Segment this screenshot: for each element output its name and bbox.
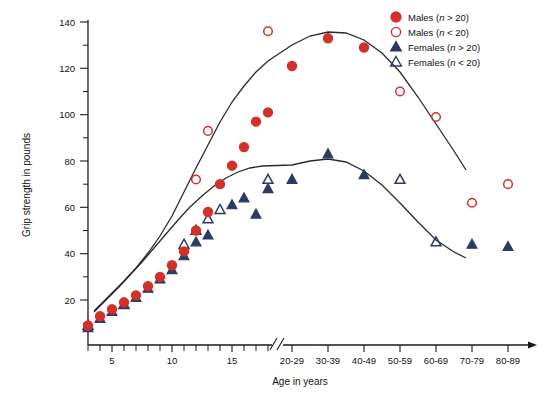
data-point xyxy=(191,237,201,246)
x-tick-label-10: 10 xyxy=(167,355,178,366)
legend-item: Males (n > 20) xyxy=(391,12,469,23)
legend-label: Females (n > 20) xyxy=(408,42,480,53)
data-point xyxy=(263,108,272,117)
data-point xyxy=(131,291,140,300)
data-point xyxy=(431,237,441,246)
data-point xyxy=(167,261,176,270)
data-point xyxy=(95,312,104,321)
data-point xyxy=(119,298,128,307)
x-tick-label-15: 15 xyxy=(227,355,238,366)
grip-strength-scatter-chart: 140 120 100 80 60 40 20 Grip strength in… xyxy=(0,0,548,398)
filled-triangle-icon xyxy=(391,42,402,52)
data-point xyxy=(227,161,236,170)
x-axis-ticks-decades xyxy=(292,345,508,352)
data-point xyxy=(215,204,225,213)
legend-item: Females (n > 20) xyxy=(391,42,480,53)
x-axis-arrowhead xyxy=(528,342,537,349)
data-point xyxy=(287,174,297,183)
data-point xyxy=(215,180,224,189)
data-point xyxy=(263,174,273,183)
data-point xyxy=(468,198,477,207)
fitted-curves-layer xyxy=(94,32,466,312)
y-tick-label: 20 xyxy=(64,295,75,306)
x-tick-label-decade: 30-39 xyxy=(316,355,340,366)
data-point xyxy=(251,117,260,126)
data-point xyxy=(263,184,273,193)
y-tick-label: 140 xyxy=(59,17,75,28)
data-point xyxy=(239,193,249,202)
data-points-layer xyxy=(83,27,513,332)
filled-circle-icon xyxy=(391,12,401,22)
data-point xyxy=(264,27,273,36)
legend-item: Males (n < 20) xyxy=(391,27,469,38)
data-point xyxy=(179,247,188,256)
x-axis: 5 10 15 20-29 30-39 40-49 50-59 60-69 70… xyxy=(88,338,537,387)
x-axis-ticks-years xyxy=(88,345,268,352)
data-point xyxy=(395,174,405,183)
legend-item: Females (n < 20) xyxy=(391,57,480,68)
data-point xyxy=(192,175,201,184)
x-tick-label-decade: 40-49 xyxy=(352,355,376,366)
legend-label: Males (n > 20) xyxy=(408,12,469,23)
x-tick-label-decade: 60-69 xyxy=(424,355,448,366)
data-point xyxy=(503,242,513,251)
data-point xyxy=(323,149,333,158)
y-axis-ticks xyxy=(80,22,88,323)
data-point xyxy=(432,113,441,122)
data-point xyxy=(107,305,116,314)
data-point xyxy=(239,143,248,152)
chart-canvas: 140 120 100 80 60 40 20 Grip strength in… xyxy=(0,0,548,398)
data-point xyxy=(155,272,164,281)
x-axis-title: Age in years xyxy=(272,376,328,387)
x-tick-label-decade: 70-79 xyxy=(460,355,484,366)
legend: Males (n > 20) Males (n < 20) Females (n… xyxy=(391,12,480,68)
y-tick-label: 40 xyxy=(64,248,75,259)
data-point xyxy=(203,207,212,216)
data-point xyxy=(504,180,513,189)
data-point xyxy=(83,321,92,330)
data-point xyxy=(359,43,368,52)
data-point xyxy=(467,239,477,248)
axis-break-marks xyxy=(270,338,284,350)
data-point xyxy=(251,209,261,218)
x-tick-label-decade: 50-59 xyxy=(388,355,412,366)
fitted-curve xyxy=(94,32,466,311)
data-point xyxy=(191,226,200,235)
x-tick-label-decade: 20-29 xyxy=(280,355,304,366)
open-circle-icon xyxy=(391,27,400,36)
x-tick-label-5: 5 xyxy=(109,355,114,366)
data-point xyxy=(143,282,152,291)
data-point xyxy=(287,61,296,70)
y-tick-label: 120 xyxy=(59,63,75,74)
legend-label: Females (n < 20) xyxy=(408,57,480,68)
y-tick-label: 80 xyxy=(64,156,75,167)
legend-label: Males (n < 20) xyxy=(408,27,469,38)
y-tick-label: 60 xyxy=(64,202,75,213)
y-axis: 140 120 100 80 60 40 20 Grip strength in… xyxy=(21,17,88,346)
data-point xyxy=(227,200,237,209)
x-tick-label-decade: 80-89 xyxy=(496,355,520,366)
y-tick-label: 100 xyxy=(59,109,75,120)
data-point xyxy=(203,230,213,239)
y-axis-title: Grip strength in pounds xyxy=(21,133,32,237)
data-point xyxy=(396,87,405,96)
data-point xyxy=(204,127,213,136)
data-point xyxy=(323,34,332,43)
